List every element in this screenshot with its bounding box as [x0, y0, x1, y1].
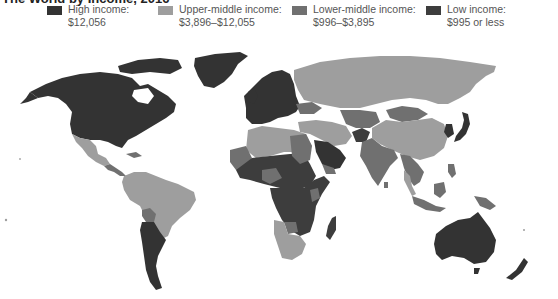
legend-swatch-high	[47, 6, 62, 15]
legend-range: $3,896–$12,055	[179, 16, 282, 29]
region-philippines	[448, 164, 456, 178]
region-japan	[454, 112, 470, 142]
region-pacific-island	[19, 158, 21, 160]
region-greenland	[194, 52, 248, 88]
legend-label: Upper-middle income:	[179, 3, 282, 16]
legend-swatch-low	[426, 6, 441, 15]
region-tasmania	[474, 268, 480, 274]
legend-label: High income:	[68, 3, 129, 16]
legend-swatch-upper-middle	[158, 6, 173, 15]
region-north-america	[30, 72, 176, 148]
region-russia	[294, 56, 496, 108]
region-pacific-island	[523, 229, 525, 231]
region-australia	[434, 212, 496, 264]
region-madagascar	[326, 216, 336, 240]
world-map	[0, 40, 558, 299]
legend-item-lower-middle-income: Lower-middle income: $996–$3,895	[292, 3, 416, 28]
legend-range: $996–$3,895	[313, 16, 416, 29]
region-indonesia	[412, 196, 446, 212]
region-sri-lanka	[384, 182, 388, 188]
legend: High income: $12,056 Upper-middle income…	[0, 3, 558, 37]
legend-label: Lower-middle income:	[313, 3, 416, 16]
region-south-america-north	[122, 172, 196, 240]
region-caribbean	[126, 152, 142, 158]
region-arctic-islands	[118, 58, 182, 74]
legend-item-high-income: High income: $12,056	[47, 3, 129, 28]
region-borneo	[434, 182, 446, 198]
legend-item-low-income: Low income: $995 or less	[426, 3, 506, 28]
legend-item-upper-middle-income: Upper-middle income: $3,896–$12,055	[158, 3, 282, 28]
region-central-asia	[340, 110, 380, 128]
region-png	[474, 196, 496, 210]
region-ukraine	[296, 102, 322, 114]
region-central-america	[104, 164, 126, 176]
legend-range: $995 or less	[447, 16, 506, 29]
legend-label: Low income:	[447, 3, 506, 16]
region-new-zealand	[506, 258, 528, 280]
region-pacific-island	[5, 219, 7, 221]
legend-swatch-lower-middle	[292, 6, 307, 15]
legend-range: $12,056	[68, 16, 129, 29]
